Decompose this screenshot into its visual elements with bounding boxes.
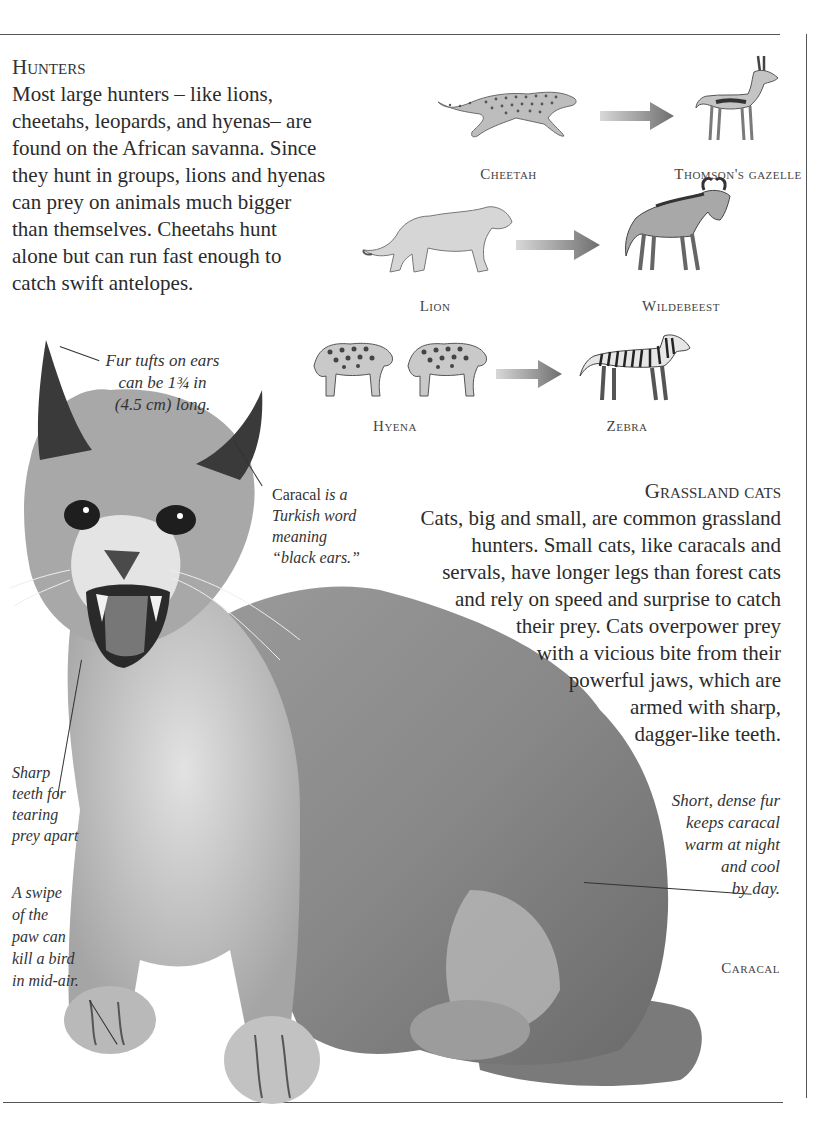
annotation-teeth: Sharp teeth for tearing prey apart bbox=[12, 762, 92, 846]
annotation-line: (4.5 cm) long. bbox=[100, 394, 225, 416]
paragraph-line: and rely on speed and surprise to catch bbox=[380, 586, 781, 613]
annotation-line: “black ears.” bbox=[272, 547, 392, 568]
grassland-cats-heading: Grassland cats bbox=[380, 478, 781, 505]
top-rule bbox=[0, 34, 780, 35]
grassland-cats-section: Grassland cats Cats, big and small, are … bbox=[380, 478, 781, 748]
hunters-paragraph: Most large hunters – like lions, cheetah… bbox=[12, 81, 372, 297]
paragraph-line: alone but can run fast enough to bbox=[12, 243, 372, 270]
paragraph-line: Most large hunters – like lions, bbox=[12, 81, 372, 108]
hunters-heading: Hunters bbox=[12, 54, 372, 81]
food-chain-row-lion: Lion Wildebeest bbox=[360, 180, 760, 310]
annotation-line: by day. bbox=[640, 878, 780, 900]
annotation-line: of the bbox=[12, 904, 102, 926]
prey-label-wildebeest: Wildebeest bbox=[616, 298, 746, 315]
grassland-cats-paragraph: Cats, big and small, are common grasslan… bbox=[380, 505, 781, 748]
annotation-line: warm at night bbox=[640, 834, 780, 856]
paragraph-line: with a vicious bite from their bbox=[380, 640, 781, 667]
annotation-line: tearing bbox=[12, 804, 92, 825]
paragraph-line: powerful jaws, which are bbox=[380, 667, 781, 694]
annotation-line: prey apart bbox=[12, 825, 92, 846]
arrow-icon bbox=[600, 102, 674, 130]
paragraph-line: their prey. Cats overpower prey bbox=[380, 613, 781, 640]
annotation-line: paw can bbox=[12, 926, 102, 948]
annotation-line: kill a bird bbox=[12, 948, 102, 970]
paragraph-line: cheetahs, leopards, and hyenas– are bbox=[12, 108, 372, 135]
annotation-paw: A swipe of the paw can kill a bird in mi… bbox=[12, 882, 102, 992]
wildebeest-illustration bbox=[616, 176, 746, 276]
paragraph-line: than themselves. Cheetahs hunt bbox=[12, 216, 372, 243]
annotation-ear-tufts: Fur tufts on ears can be 1¾ in (4.5 cm) … bbox=[100, 350, 225, 416]
lion-illustration bbox=[360, 194, 515, 276]
predator-label-lion: Lion bbox=[380, 298, 490, 315]
caracal-word: Caracal bbox=[272, 486, 321, 503]
paragraph-line: catch swift antelopes. bbox=[12, 270, 372, 297]
right-margin-rule bbox=[806, 34, 807, 1098]
caracal-label: Caracal bbox=[700, 960, 780, 977]
annotation-name-meaning: Caracal is a Turkish word meaning “black… bbox=[272, 484, 392, 568]
annotation-line: Turkish word bbox=[272, 505, 392, 526]
annotation-line: Caracal is a bbox=[272, 484, 392, 505]
annotation-line: and cool bbox=[640, 856, 780, 878]
thomsons-gazelle-illustration bbox=[692, 54, 784, 146]
annotation-fur: Short, dense fur keeps caracal warm at n… bbox=[640, 790, 780, 900]
annotation-line: teeth for bbox=[12, 783, 92, 804]
food-chain-row-cheetah: Cheetah Thomson's gazelle bbox=[436, 78, 786, 188]
annotation-line: Fur tufts on ears bbox=[100, 350, 225, 372]
hunters-section: Hunters Most large hunters – like lions,… bbox=[12, 54, 372, 297]
paragraph-line: hunters. Small cats, like caracals and bbox=[380, 532, 781, 559]
annotation-fragment: is a bbox=[321, 486, 348, 503]
annotation-line: Sharp bbox=[12, 762, 92, 783]
annotation-line: Short, dense fur bbox=[640, 790, 780, 812]
annotation-line: can be 1¾ in bbox=[100, 372, 225, 394]
paragraph-line: dagger-like teeth. bbox=[380, 721, 781, 748]
paragraph-line: they hunt in groups, lions and hyenas bbox=[12, 162, 372, 189]
annotation-line: keeps caracal bbox=[640, 812, 780, 834]
paragraph-line: Cats, big and small, are common grasslan… bbox=[380, 505, 781, 532]
annotation-line: meaning bbox=[272, 526, 392, 547]
paragraph-line: can prey on animals much bigger bbox=[12, 189, 372, 216]
paragraph-line: servals, have longer legs than forest ca… bbox=[380, 559, 781, 586]
annotation-line: A swipe bbox=[12, 882, 102, 904]
annotation-line: in mid-air. bbox=[12, 970, 102, 992]
cheetah-illustration bbox=[436, 84, 581, 146]
arrow-icon bbox=[516, 230, 600, 260]
paragraph-line: armed with sharp, bbox=[380, 694, 781, 721]
paragraph-line: found on the African savanna. Since bbox=[12, 135, 372, 162]
